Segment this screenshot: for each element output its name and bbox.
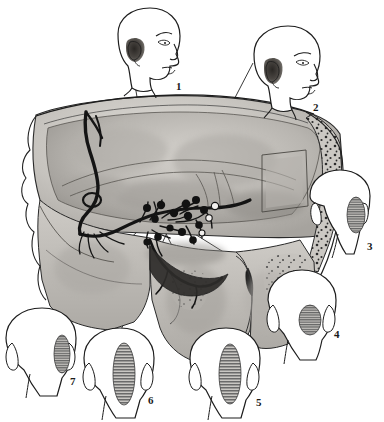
head-3-sensory-zone <box>347 197 365 233</box>
label-2: 2 <box>313 101 319 113</box>
anatomical-figure: 1 2 3 4 5 6 7 <box>0 0 384 422</box>
label-1: 1 <box>176 80 182 92</box>
ganglion-node <box>200 206 208 214</box>
head-6-sensory-zone <box>113 343 135 405</box>
ganglion-node <box>182 200 191 209</box>
head-1-pupil <box>164 42 166 44</box>
label-4: 4 <box>334 328 340 340</box>
ganglion-node <box>166 224 173 231</box>
label-7: 7 <box>70 375 76 387</box>
open-node <box>199 230 205 236</box>
ganglion-node <box>195 221 203 229</box>
label-3: 3 <box>367 240 373 252</box>
ganglion-node <box>170 209 178 217</box>
head-7-sensory-zone <box>54 335 70 373</box>
label-6: 6 <box>148 394 154 406</box>
ganglion-node <box>154 233 162 241</box>
sinus-groove-inner <box>266 156 303 208</box>
head-5-sensory-zone <box>219 344 241 404</box>
open-node <box>206 215 212 221</box>
open-node <box>211 202 218 209</box>
ganglion-node <box>157 201 165 209</box>
ganglion-node <box>151 215 159 223</box>
ganglion-node <box>189 236 197 244</box>
head-2-pupil <box>302 62 304 64</box>
ganglion-node <box>184 212 192 220</box>
label-5: 5 <box>256 396 262 408</box>
ganglion-node <box>143 204 151 212</box>
head-4-sensory-zone <box>299 305 321 335</box>
ganglion-node <box>143 238 150 245</box>
ganglion-node <box>178 228 186 236</box>
ganglion-node <box>192 196 200 204</box>
figure-canvas: 1 2 3 4 5 6 7 <box>0 0 384 422</box>
